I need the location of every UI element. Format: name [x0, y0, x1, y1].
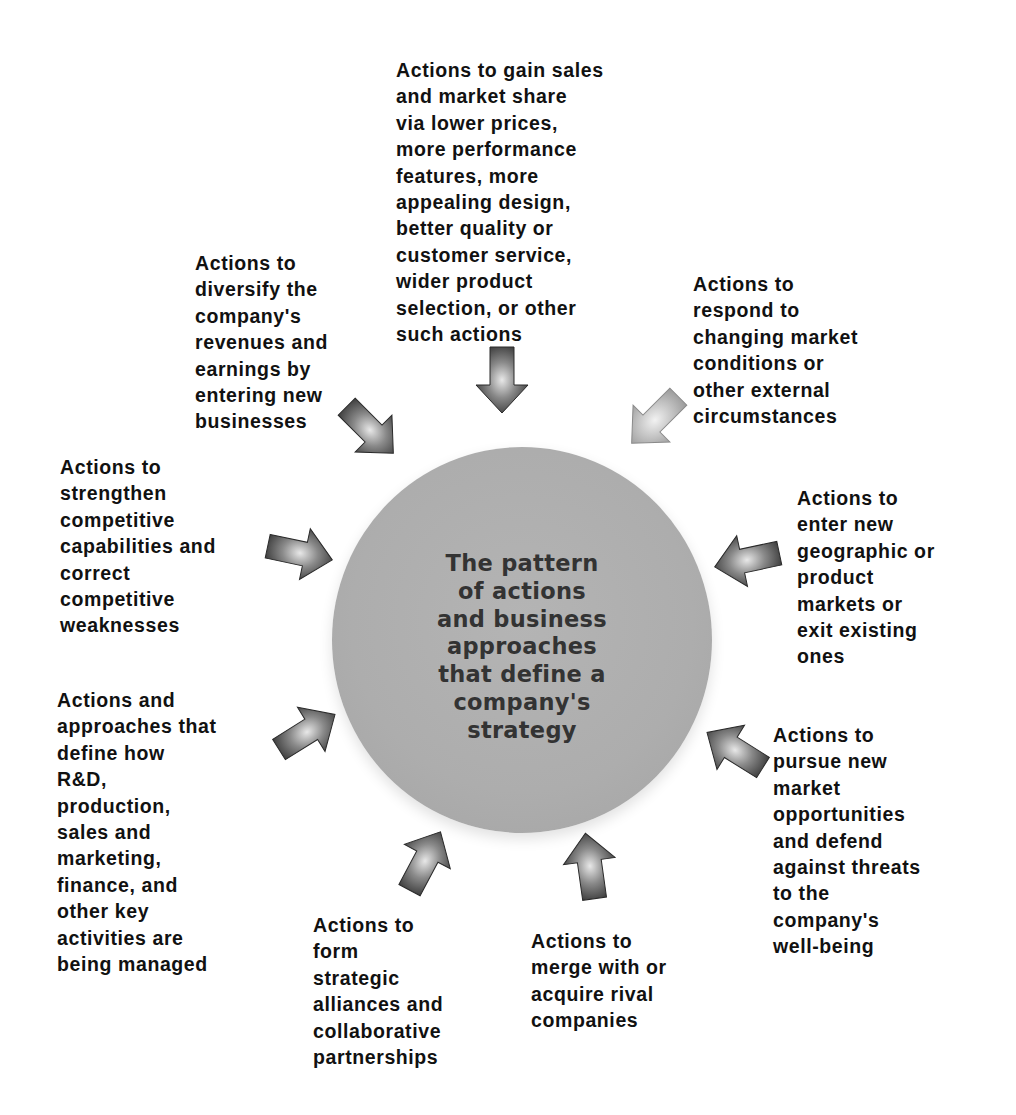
arrow-up-icon	[557, 827, 622, 904]
arrow-down-icon	[474, 345, 530, 415]
label-respond: Actions to respond to changing market co…	[693, 271, 858, 429]
label-enter-markets: Actions to enter new geographic or produ…	[797, 485, 935, 670]
arrow-up-right-steep-icon	[384, 817, 466, 905]
arrow-down-right-icon	[325, 385, 414, 474]
label-manage-activities: Actions and approaches that define how R…	[57, 687, 217, 977]
label-strengthen: Actions to strengthen competitive capabi…	[60, 454, 216, 639]
label-gain-sales: Actions to gain sales and market share v…	[396, 57, 604, 347]
label-diversify: Actions to diversify the company's reven…	[195, 250, 328, 435]
label-alliances: Actions to form strategic alliances and …	[313, 912, 443, 1070]
label-pursue-opportunities: Actions to pursue new market opportuniti…	[773, 722, 921, 960]
arrow-left-icon	[707, 525, 787, 594]
hub-title: The pattern of actions and business appr…	[332, 550, 712, 745]
strategy-hub-circle: The pattern of actions and business appr…	[332, 447, 712, 833]
arrow-down-left-icon	[610, 375, 699, 464]
label-merge: Actions to merge with or acquire rival c…	[531, 928, 667, 1034]
arrow-right-icon	[260, 518, 340, 587]
